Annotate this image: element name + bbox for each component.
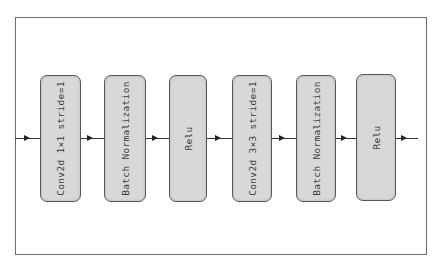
block-label: Batch Normalization xyxy=(311,81,322,195)
block-batch-norm-1: Batch Normalization xyxy=(104,75,146,202)
arrowhead-icon xyxy=(215,135,221,141)
block-label: Relu xyxy=(182,126,193,150)
arrowhead-icon xyxy=(401,135,407,141)
block-label: Conv2d 1×1 stride=1 xyxy=(55,81,66,195)
arrowhead-icon xyxy=(87,135,93,141)
block-label: Relu xyxy=(370,125,381,149)
block-relu-2: Relu xyxy=(356,74,396,201)
edge-b6-output xyxy=(396,138,418,139)
block-conv2d-3x3: Conv2d 3×3 stride=1 xyxy=(232,75,272,202)
block-label: Conv2d 3×3 stride=1 xyxy=(247,81,258,195)
arrowhead-icon xyxy=(279,135,285,141)
arrowhead-icon xyxy=(24,135,30,141)
block-label: Batch Normalization xyxy=(120,81,131,195)
block-batch-norm-2: Batch Normalization xyxy=(296,75,336,202)
block-relu-1: Relu xyxy=(169,75,207,202)
arrowhead-icon xyxy=(152,135,158,141)
block-conv2d-1x1: Conv2d 1×1 stride=1 xyxy=(40,75,81,202)
arrowhead-icon xyxy=(341,135,347,141)
